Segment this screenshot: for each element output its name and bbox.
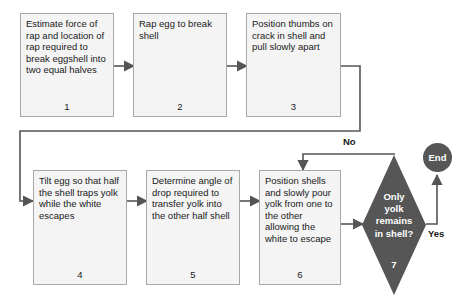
process-node-6-text: Position shells and slowly pour yolk fro… <box>265 175 336 245</box>
edge-label-yes: Yes <box>428 228 444 239</box>
process-node-2-text: Rap egg to break shell <box>139 18 222 41</box>
process-node-1[interactable]: Estimate force of rap and location of ra… <box>20 13 114 117</box>
edge-label-no: No <box>343 136 356 147</box>
decision-node-7-shape <box>362 155 426 295</box>
process-node-1-number: 1 <box>21 101 113 113</box>
process-node-3-text: Position thumbs on crack in shell and pu… <box>252 18 336 53</box>
process-node-6-number: 6 <box>260 269 340 281</box>
terminator-node-end-label: End <box>429 152 447 163</box>
process-node-3-number: 3 <box>247 101 340 113</box>
flowchart-canvas: Estimate force of rap and location of ra… <box>0 0 461 301</box>
terminator-node-end[interactable]: End <box>423 143 452 172</box>
process-node-2-number: 2 <box>134 101 226 113</box>
edge-step7-yes-end <box>426 175 437 224</box>
process-node-3[interactable]: Position thumbs on crack in shell and pu… <box>246 13 341 117</box>
process-node-4[interactable]: Tilt egg so that half the shell traps yo… <box>33 170 127 285</box>
decision-node-7[interactable]: Only yolk remains in shell? 7 <box>362 155 426 295</box>
process-node-4-text: Tilt egg so that half the shell traps yo… <box>39 175 122 221</box>
process-node-4-number: 4 <box>34 269 126 281</box>
process-node-6[interactable]: Position shells and slowly pour yolk fro… <box>259 170 341 285</box>
process-node-1-text: Estimate force of rap and location of ra… <box>26 18 109 76</box>
process-node-5-text: Determine angle of drop required to tran… <box>152 175 235 221</box>
process-node-2[interactable]: Rap egg to break shell 2 <box>133 13 227 117</box>
process-node-5-number: 5 <box>147 269 239 281</box>
process-node-5[interactable]: Determine angle of drop required to tran… <box>146 170 240 285</box>
